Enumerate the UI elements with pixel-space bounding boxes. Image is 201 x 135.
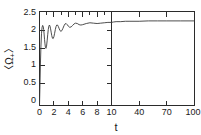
- y-axis-title: 〈Ω+〉: [4, 43, 16, 75]
- x-tick-label: 70: [162, 107, 172, 117]
- x-tick-label: 100: [185, 107, 200, 117]
- omega-curve-left: [40, 22, 112, 105]
- x-axis-ticks-right: [139, 12, 194, 106]
- x-tick-label: 4: [66, 107, 71, 117]
- y-axis-ticks: [40, 12, 112, 106]
- angle-bracket-open-glyph: 〈: [4, 65, 15, 75]
- x-tick-label: 40: [134, 107, 144, 117]
- x-axis-tick-labels: 0 2 4 6 8 10 40 70 100: [37, 107, 201, 117]
- x-tick-label: 10: [106, 107, 116, 117]
- x-tick-label: 2: [51, 107, 56, 117]
- frame-rect: [40, 12, 195, 106]
- data-series-right: [112, 21, 195, 23]
- y-tick-label: 0.5: [23, 77, 36, 87]
- y-axis-title-text: 〈Ω+〉: [4, 43, 16, 75]
- y-tick-label: 1: [31, 59, 36, 69]
- plot-frame: [40, 12, 195, 106]
- y-tick-label: 0: [31, 95, 36, 105]
- x-tick-label: 6: [80, 107, 85, 117]
- angle-bracket-close-glyph: 〉: [4, 43, 15, 53]
- x-axis-ticks-left: [40, 12, 112, 106]
- y-axis-tick-labels: 2.5 2 1.5 1 0.5 0: [23, 7, 36, 105]
- omega-curve-right: [112, 21, 195, 23]
- y-tick-label: 2.5: [23, 7, 36, 17]
- x-tick-label: 0: [37, 107, 42, 117]
- x-tick-label: 8: [95, 107, 100, 117]
- chart-canvas: 2.5 2 1.5 1 0.5 0 〈Ω+〉: [0, 0, 201, 135]
- data-series-left: [40, 22, 112, 105]
- y-tick-label: 2: [31, 24, 36, 34]
- y-tick-label: 1.5: [23, 42, 36, 52]
- x-axis-title: t: [114, 121, 117, 133]
- chart-figure: 2.5 2 1.5 1 0.5 0 〈Ω+〉: [0, 0, 201, 135]
